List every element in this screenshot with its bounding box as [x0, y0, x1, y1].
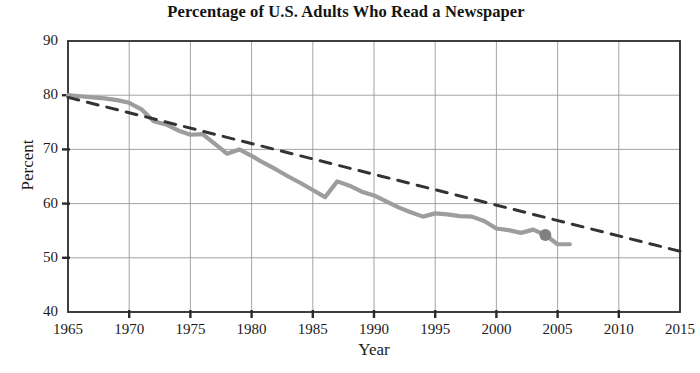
- x-tick-label-1980: 1980: [224, 321, 280, 338]
- y-axis-title: Percent: [18, 110, 38, 220]
- x-tick-label-2015: 2015: [652, 321, 700, 338]
- y-tick-label-90: 90: [28, 32, 58, 49]
- x-tick-label-2000: 2000: [468, 321, 524, 338]
- gridlines: [68, 41, 680, 312]
- data-markers: [539, 229, 551, 241]
- x-tick-label-1965: 1965: [40, 321, 96, 338]
- x-tick-label-1985: 1985: [285, 321, 341, 338]
- x-tick-label-2010: 2010: [591, 321, 647, 338]
- y-tick-label-50: 50: [28, 249, 58, 266]
- x-axis-title: Year: [68, 340, 680, 360]
- x-tick-label-1990: 1990: [346, 321, 402, 338]
- x-tick-label-2005: 2005: [530, 321, 586, 338]
- x-tick-label-1970: 1970: [101, 321, 157, 338]
- y-tick-label-40: 40: [28, 303, 58, 320]
- series-line-0: [68, 95, 570, 244]
- highlight-point: [539, 229, 551, 241]
- y-tick-label-80: 80: [28, 86, 58, 103]
- x-tick-label-1975: 1975: [162, 321, 218, 338]
- axis-ticks: [62, 95, 619, 318]
- x-tick-label-1995: 1995: [407, 321, 463, 338]
